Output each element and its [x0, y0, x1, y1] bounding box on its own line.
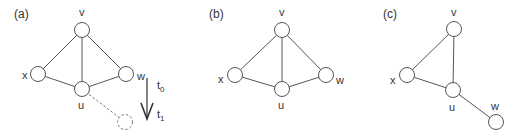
- node-u: [446, 83, 461, 98]
- panel-a-label: (a): [14, 7, 29, 21]
- edge-v-w: [82, 30, 126, 74]
- node-w: [119, 67, 134, 82]
- label-w: w: [490, 100, 499, 112]
- label-v: v: [79, 6, 85, 18]
- label-v: v: [279, 6, 285, 18]
- node-x: [228, 68, 243, 83]
- label-w: w: [335, 74, 344, 86]
- label-w: w: [136, 70, 145, 82]
- edge-u-w: [453, 90, 496, 122]
- edge-v-x: [235, 30, 282, 75]
- edge-v-x: [407, 29, 454, 75]
- panel-c-label: (c): [383, 7, 397, 21]
- label-x: x: [390, 74, 396, 86]
- label-v: v: [451, 6, 457, 18]
- label-u: u: [449, 101, 455, 113]
- panel-a: (a) v x w u t0 t1: [14, 6, 165, 130]
- label-t1: t1: [157, 108, 165, 123]
- node-v: [447, 22, 462, 37]
- panel-b: (b) v x w u: [209, 6, 344, 111]
- node-x: [31, 67, 46, 82]
- label-u: u: [78, 99, 84, 111]
- edge-v-u: [453, 29, 454, 90]
- panel-c: (c) v x u w: [383, 6, 504, 130]
- edge-u-new-dashed: [82, 89, 125, 122]
- time-arrow: t0 t1: [141, 78, 165, 123]
- node-v: [75, 23, 90, 38]
- node-v: [275, 23, 290, 38]
- node-new-dashed: [118, 115, 133, 130]
- label-u: u: [278, 99, 284, 111]
- edge-v-x: [38, 30, 82, 74]
- node-u: [75, 82, 90, 97]
- label-x: x: [22, 69, 28, 81]
- label-t0: t0: [157, 79, 165, 94]
- edge-v-w: [282, 30, 326, 75]
- graph-figure: (a) v x w u t0 t1 (b) v: [0, 0, 522, 137]
- node-u: [275, 82, 290, 97]
- node-w: [489, 115, 504, 130]
- panel-b-label: (b): [209, 7, 224, 21]
- node-w: [319, 68, 334, 83]
- node-x: [400, 68, 415, 83]
- label-x: x: [218, 73, 224, 85]
